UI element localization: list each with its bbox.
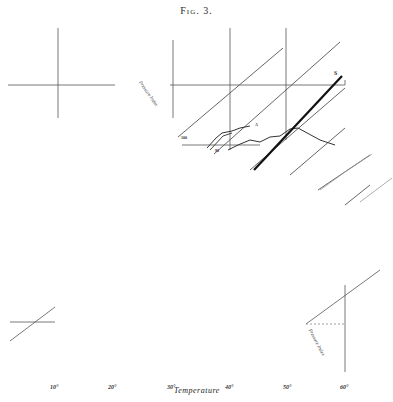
lower-right-construction [306, 270, 380, 372]
x-tick-40: 40° [225, 384, 233, 390]
thick-line-s [254, 76, 342, 170]
label-a: A [255, 122, 258, 127]
x-tick-50: 50° [283, 384, 291, 390]
upper-left-cross [8, 28, 115, 118]
label-90: 90 [215, 148, 219, 153]
lower-left-cross [10, 307, 55, 341]
x-tick-20: 20° [108, 384, 116, 390]
diagonal-isolines [178, 42, 370, 205]
lower-curve [228, 128, 335, 150]
x-axis-label: Temperature [174, 386, 220, 395]
upper-grid [170, 28, 345, 150]
label-s: S [334, 70, 337, 76]
label-100: 100 [181, 135, 187, 140]
x-tick-10: 10° [50, 384, 58, 390]
faint-isolines [320, 154, 392, 202]
figure-plot [0, 0, 393, 402]
x-tick-60: 60° [340, 384, 348, 390]
